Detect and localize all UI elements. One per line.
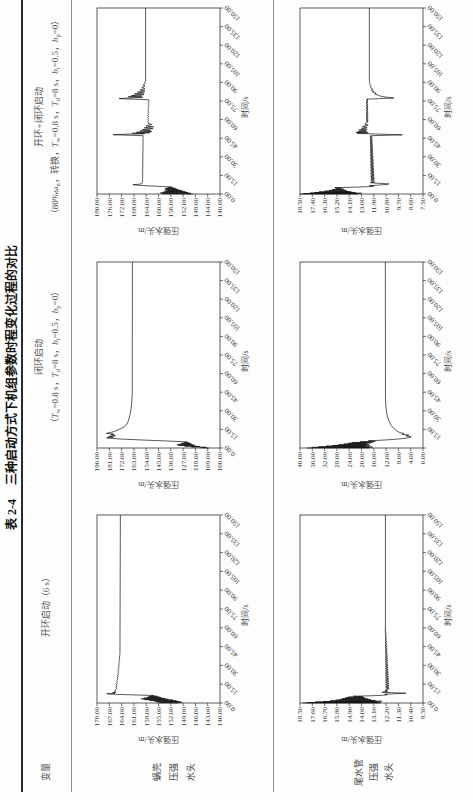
plot-frame (300, 8, 423, 194)
y-tick-label: 154.00 (143, 452, 151, 472)
y-tick-label: 28.00 (333, 452, 341, 468)
y-axis-title: 压强水头/m (341, 226, 382, 236)
x-tick-label: 60.00 (425, 115, 442, 132)
header-open-closed-loop-params: （80%ωn，转换，Tw=0.8 s，Td=8 s，bt=0.5，bp=0） (50, 16, 61, 218)
header-closed-loop-params: （Tw=0.8 s，Td=8 s，bt=0.5，bp=0） (50, 287, 61, 427)
y-tick-label: 13.10 (370, 707, 378, 723)
plot-frame (97, 262, 220, 448)
x-tick-label: 105.00 (425, 567, 445, 587)
y-tick-label: 0.00 (419, 452, 427, 465)
chart-draft-tube-open-loop: 9.5010.4011.3012.2013.1014.0014.9015.801… (296, 499, 465, 751)
y-tick-label: 15.80 (333, 707, 341, 723)
x-tick-label: 30.00 (425, 406, 442, 423)
table-row-divider (273, 0, 274, 792)
x-tick-label: 135.00 (425, 276, 445, 296)
chart-draft-tube-open-closed-loop: 7.508.609.7010.8011.9013.0014.1015.2016.… (296, 0, 465, 242)
chart-volute-closed-loop: 100.00109.00118.00127.00136.00145.00154.… (93, 246, 262, 496)
y-tick-label: 156.00 (167, 198, 175, 218)
x-tick-label: 15.00 (222, 171, 239, 188)
x-tick-label: 45.00 (222, 642, 239, 659)
x-tick-label: 15.00 (425, 171, 442, 188)
y-tick-label: 158.00 (143, 707, 151, 727)
y-tick-label: 36.00 (309, 452, 317, 468)
header-closed-loop-start: 闭环启动 (34, 339, 45, 375)
x-tick-label: 60.00 (425, 623, 442, 640)
y-axis-title: 压强水头/m (341, 480, 382, 490)
x-tick-label: 90.00 (425, 585, 442, 602)
x-tick-label: 0.00 (222, 443, 237, 458)
y-tick-label: 136.00 (167, 452, 175, 472)
y-tick-label: 9.70 (395, 198, 403, 211)
row-label-volute-pressure-head: 蜗壳 压强 水头 (149, 763, 200, 781)
y-tick-label: 10.40 (407, 707, 415, 723)
row-label-draft-tube-pressure-head: 尾水管 压强 水头 (352, 759, 397, 786)
x-tick-label: 135.00 (222, 276, 242, 296)
y-tick-label: 172.00 (118, 198, 126, 218)
y-tick-label: 14.00 (358, 707, 366, 723)
y-tick-label: 16.00 (370, 452, 378, 468)
x-tick-label: 75.00 (222, 604, 239, 621)
y-tick-label: 167.00 (106, 707, 114, 727)
x-tick-label: 105.00 (222, 567, 242, 587)
x-tick-label: 15.00 (425, 425, 442, 442)
x-axis-title: 时间/s (240, 350, 250, 371)
y-tick-label: 7.50 (419, 198, 427, 211)
y-tick-label: 12.00 (383, 452, 391, 468)
y-tick-label: 163.00 (130, 452, 138, 472)
x-tick-label: 90.00 (222, 332, 239, 349)
x-tick-label: 15.00 (222, 679, 239, 696)
x-tick-label: 120.00 (222, 548, 242, 568)
x-tick-label: 75.00 (425, 604, 442, 621)
x-tick-label: 60.00 (425, 369, 442, 386)
x-tick-label: 90.00 (222, 585, 239, 602)
y-tick-label: 149.00 (180, 707, 188, 727)
y-tick-label: 160.00 (155, 198, 163, 218)
plot-frame (97, 8, 220, 194)
y-axis-title: 压强水头/m (138, 735, 179, 745)
chart-svg: 9.5010.4011.3012.2013.1014.0014.9015.801… (296, 499, 465, 751)
x-tick-label: 150.00 (222, 257, 242, 277)
y-tick-label: 140.00 (216, 707, 224, 727)
y-tick-label: 12.20 (383, 707, 391, 723)
y-tick-label: 180.00 (93, 198, 101, 218)
y-tick-label: 155.00 (155, 707, 163, 727)
y-axis-title: 压强水头/m (138, 480, 179, 490)
y-tick-label: 40.00 (296, 452, 304, 468)
chart-volute-open-loop: 140.00143.00146.00149.00152.00155.00158.… (93, 499, 262, 751)
x-tick-label: 135.00 (222, 22, 242, 42)
x-tick-label: 135.00 (222, 529, 242, 549)
y-tick-label: 118.00 (192, 452, 200, 471)
x-tick-label: 60.00 (222, 623, 239, 640)
x-tick-label: 0.00 (222, 189, 237, 204)
x-axis-title: 时间/s (240, 604, 250, 625)
header-variable: 变量 (41, 763, 52, 781)
y-tick-label: 16.30 (321, 198, 329, 214)
y-tick-label: 15.20 (333, 198, 341, 214)
x-tick-label: 120.00 (425, 294, 445, 314)
y-tick-label: 190.00 (93, 452, 101, 472)
x-tick-label: 120.00 (425, 548, 445, 568)
x-axis-title: 时间/s (240, 96, 250, 117)
x-tick-label: 135.00 (425, 22, 445, 42)
x-tick-label: 15.00 (222, 425, 239, 442)
x-tick-label: 75.00 (425, 350, 442, 367)
y-tick-label: 164.00 (118, 707, 126, 727)
x-tick-label: 105.00 (222, 313, 242, 333)
x-tick-label: 150.00 (425, 257, 445, 277)
x-tick-label: 90.00 (222, 78, 239, 95)
x-tick-label: 105.00 (425, 313, 445, 333)
x-tick-label: 30.00 (222, 661, 239, 678)
table-top-rule (21, 0, 23, 792)
x-tick-label: 45.00 (425, 642, 442, 659)
x-tick-label: 150.00 (425, 3, 445, 23)
y-axis-title: 压强水头/m (138, 226, 179, 236)
y-tick-label: 8.00 (395, 452, 403, 465)
y-tick-label: 14.10 (346, 198, 354, 214)
y-tick-label: 172.00 (118, 452, 126, 472)
x-tick-label: 90.00 (425, 78, 442, 95)
x-tick-label: 60.00 (222, 369, 239, 386)
x-tick-label: 120.00 (222, 294, 242, 314)
plot-frame (97, 515, 220, 703)
y-tick-label: 17.40 (309, 198, 317, 214)
x-tick-label: 30.00 (425, 661, 442, 678)
